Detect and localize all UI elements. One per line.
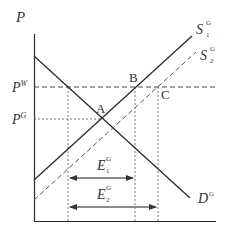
supply-2-sub: 2 <box>210 57 214 65</box>
supply-1-sup: G <box>206 19 211 27</box>
export-1-sup: G <box>106 155 111 163</box>
export-1-sub: 1 <box>106 167 110 175</box>
point-a-label: A <box>96 101 106 116</box>
supply-2-sup: G <box>210 45 215 53</box>
domestic-price-label: PG <box>11 111 27 127</box>
export-2-sub: 2 <box>106 196 110 204</box>
export-1-label: E <box>96 158 106 173</box>
y-axis-label: P <box>15 9 25 25</box>
demand-curve <box>34 56 190 198</box>
demand-sup: G <box>209 190 214 198</box>
supply-1-sub: 1 <box>206 31 210 39</box>
supply-2-label: S <box>200 48 207 63</box>
supply-demand-diagram: P PW PG A B C S G 1 S G 2 D G E G 1 E G … <box>0 0 228 241</box>
export-2-sup: G <box>106 184 111 192</box>
demand-label: D <box>197 191 208 206</box>
point-b-label: B <box>129 70 138 85</box>
supply-1-label: S <box>196 22 203 37</box>
export-2-label: E <box>96 187 106 202</box>
world-price-label: PW <box>11 79 29 95</box>
supply-curve-1 <box>34 36 192 180</box>
point-c-label: C <box>161 87 170 102</box>
